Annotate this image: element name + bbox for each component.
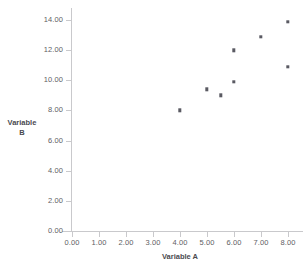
x-axis-tick bbox=[153, 231, 154, 237]
x-axis-tick bbox=[180, 231, 181, 237]
x-axis-tick bbox=[99, 231, 100, 237]
y-axis-tick-label: 12.00 bbox=[25, 45, 63, 54]
y-axis-tick-label: 4.00 bbox=[25, 166, 63, 175]
y-axis-title-line: B bbox=[2, 128, 42, 138]
y-axis-line bbox=[71, 8, 72, 232]
x-axis-tick-label: 8.00 bbox=[271, 238, 305, 247]
data-point bbox=[178, 109, 181, 112]
y-axis-tick bbox=[66, 20, 72, 21]
y-axis-tick bbox=[66, 171, 72, 172]
data-point bbox=[232, 80, 235, 83]
y-axis-tick bbox=[66, 50, 72, 51]
data-point bbox=[286, 20, 289, 23]
x-axis-tick bbox=[234, 231, 235, 237]
x-axis-title: Variable A bbox=[72, 252, 288, 261]
x-axis-tick bbox=[72, 231, 73, 237]
x-axis-tick bbox=[126, 231, 127, 237]
x-axis-tick bbox=[207, 231, 208, 237]
plot-area: 0.002.004.006.008.0010.0012.0014.00 0.00… bbox=[0, 0, 306, 267]
data-point bbox=[259, 35, 262, 38]
scatter-plot-figure: 0.002.004.006.008.0010.0012.0014.00 0.00… bbox=[0, 0, 306, 267]
y-axis-tick-label: 0.00 bbox=[25, 226, 63, 235]
y-axis-tick bbox=[66, 110, 72, 111]
data-point bbox=[286, 65, 289, 68]
data-point bbox=[205, 88, 208, 91]
data-point bbox=[232, 48, 235, 51]
data-point bbox=[219, 94, 222, 97]
x-axis-tick bbox=[288, 231, 289, 237]
x-axis-tick bbox=[261, 231, 262, 237]
y-axis-tick-label: 10.00 bbox=[25, 75, 63, 84]
y-axis-tick bbox=[66, 80, 72, 81]
y-axis-tick-label: 14.00 bbox=[25, 15, 63, 24]
y-axis-title-line: Variable bbox=[2, 118, 42, 128]
y-axis-tick-label: 8.00 bbox=[25, 105, 63, 114]
y-axis-title: VariableB bbox=[2, 118, 42, 138]
y-axis-tick bbox=[66, 201, 72, 202]
y-axis-tick bbox=[66, 141, 72, 142]
y-axis-tick-label: 2.00 bbox=[25, 196, 63, 205]
